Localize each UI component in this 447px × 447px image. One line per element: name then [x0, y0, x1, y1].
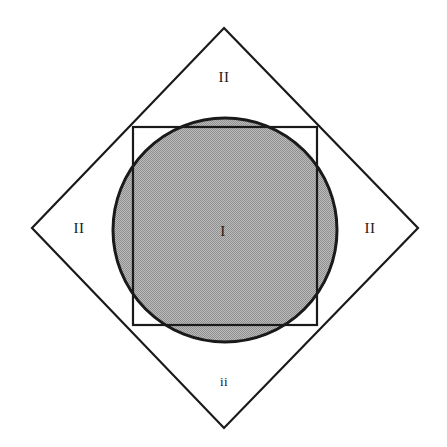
region-label-bottom: ii [220, 375, 228, 388]
figure-canvas: II II II I ii [0, 0, 447, 447]
region-label-right: II [365, 221, 376, 236]
region-label-left: II [74, 221, 85, 236]
region-label-center: I [220, 224, 226, 239]
region-label-top: II [219, 70, 230, 85]
